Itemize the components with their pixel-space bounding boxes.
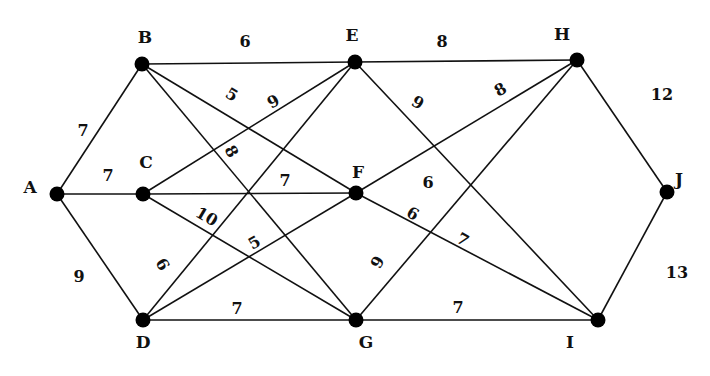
edge-weight-label: 6 [152, 255, 174, 274]
edge-weight-label: 5 [222, 83, 241, 105]
edge-weight-label: 12 [651, 85, 673, 104]
node-b: B [135, 27, 153, 72]
node-label: C [139, 152, 153, 172]
edge-weight-label: 7 [231, 299, 242, 318]
edge-weight-label: 6 [422, 173, 433, 192]
node-c: C [136, 152, 153, 202]
edge-e-i [355, 62, 598, 320]
edge-a-b [57, 64, 142, 194]
edge-weight-labels: 7681259987876106576991377 [73, 32, 688, 318]
edge-weight-label: 9 [408, 91, 427, 113]
edge-c-e [143, 62, 355, 194]
edge-weight-label: 6 [239, 32, 250, 51]
node-e: E [346, 25, 363, 70]
node-dot [50, 187, 65, 202]
edge-weight-label: 8 [436, 32, 447, 51]
edge-i-j [598, 192, 667, 320]
node-h: H [554, 24, 585, 68]
edge-weight-label: 7 [77, 121, 88, 140]
edge-c-f [143, 193, 356, 194]
node-j: J [660, 169, 684, 200]
node-d: D [136, 313, 151, 353]
node-dot [136, 313, 151, 328]
edge-f-h [356, 60, 577, 193]
node-dot [591, 313, 606, 328]
node-dot [135, 57, 150, 72]
edge-weight-label: 9 [366, 253, 388, 272]
node-dot [349, 186, 364, 201]
node-label: F [352, 162, 364, 182]
edge-f-i [356, 193, 598, 320]
node-label: E [346, 25, 359, 45]
node-g: G [349, 313, 374, 353]
node-f: F [349, 162, 365, 201]
edge-weight-label: 7 [452, 298, 463, 317]
edge-e-h [355, 60, 577, 62]
node-i: I [566, 313, 605, 353]
node-dot [570, 53, 585, 68]
edge-weight-label: 13 [666, 263, 688, 282]
node-a: A [22, 177, 64, 202]
node-label: B [138, 27, 152, 47]
edge-weight-label: 8 [491, 78, 510, 100]
weighted-graph-diagram: 7681259987876106576991377 ABCDEFGHIJ [0, 0, 710, 376]
node-label: D [136, 332, 151, 352]
node-dot [660, 185, 675, 200]
node-dot [349, 313, 364, 328]
edge-weight-label: 6 [403, 202, 422, 224]
edge-weight-label: 7 [279, 171, 290, 190]
node-label: J [673, 169, 683, 189]
edge-weight-label: 7 [102, 166, 113, 185]
edge-h-j [577, 60, 667, 192]
edge-a-d [57, 194, 143, 320]
node-label: G [359, 332, 374, 352]
edge-weight-label: 9 [73, 267, 84, 286]
edge-weight-label: 7 [453, 228, 472, 250]
graph-nodes: ABCDEFGHIJ [22, 24, 683, 352]
node-dot [136, 187, 151, 202]
node-label: I [566, 332, 574, 352]
edge-b-e [142, 62, 355, 64]
node-label: A [22, 177, 37, 197]
node-dot [348, 55, 363, 70]
node-label: H [554, 24, 570, 44]
